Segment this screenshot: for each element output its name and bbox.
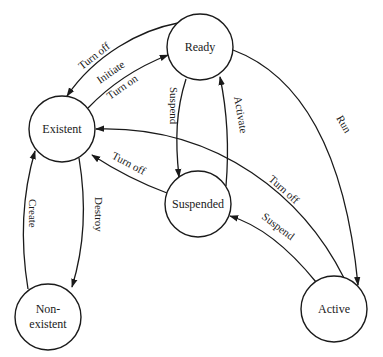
state-existent-label: Existent	[42, 122, 82, 136]
state-nonexistent-label-line1: Non-	[36, 302, 61, 316]
edge-label-turn-off-active-existent: Turn off	[267, 173, 302, 206]
edge-existent-to-nonexistent-destroy	[72, 158, 83, 287]
edge-label-turn-off-suspended-existent: Turn off	[110, 149, 148, 177]
edge-label-run: Run	[334, 113, 354, 135]
state-active: Active	[301, 276, 367, 342]
state-active-label: Active	[318, 302, 350, 316]
state-suspended-label: Suspended	[172, 197, 224, 211]
edge-label-create: Create	[27, 199, 39, 228]
state-existent: Existent	[29, 96, 95, 162]
state-nonexistent: Non- existent	[15, 284, 81, 350]
edge-ready-to-active-run	[233, 50, 358, 285]
edge-suspended-to-ready-activate	[220, 77, 228, 186]
edge-label-suspend-active-suspended: Suspend	[260, 210, 297, 242]
edge-label-destroy: Destroy	[93, 197, 105, 232]
edge-label-activate: Activate	[232, 95, 250, 134]
edge-label-suspend-ready-suspended: Suspend	[168, 87, 180, 125]
state-nonexistent-label-line2: existent	[29, 317, 67, 331]
state-ready: Ready	[167, 14, 233, 80]
state-diagram: Turn off Initiate Turn on Suspend Activa…	[0, 0, 383, 357]
state-suspended: Suspended	[165, 171, 231, 237]
state-ready-label: Ready	[185, 40, 216, 54]
